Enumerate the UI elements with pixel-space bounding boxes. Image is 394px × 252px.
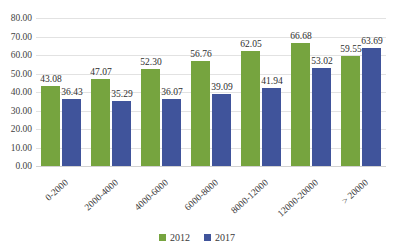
bar-2017[interactable] — [262, 88, 281, 166]
legend-swatch-icon — [159, 234, 166, 241]
y-axis-tick-label: 60.00 — [0, 50, 32, 60]
bar-group: 62.0541.94 — [241, 18, 281, 166]
legend-item[interactable]: 2012 — [159, 232, 190, 243]
y-axis-tick-label: 30.00 — [0, 106, 32, 116]
bar-2012[interactable] — [241, 51, 260, 166]
bar-2017[interactable] — [212, 94, 231, 166]
bar-value-label: 63.69 — [355, 36, 389, 46]
bar-2017[interactable] — [362, 48, 381, 166]
y-axis-tick-label: 0.00 — [0, 161, 32, 171]
x-axis-category-label: 6000-8000 — [164, 177, 220, 229]
y-axis-tick-label: 80.00 — [0, 13, 32, 23]
bar-value-label: 41.94 — [255, 76, 289, 86]
bar-value-label: 53.02 — [305, 56, 339, 66]
bar-value-label: 56.76 — [184, 49, 218, 59]
x-axis-category-label: 12000-20000 — [264, 177, 320, 229]
x-axis-category-label: 8000-12000 — [214, 177, 270, 229]
chart-legend: 20122017 — [0, 232, 394, 243]
bar-chart: 0.0010.0020.0030.0040.0050.0060.0070.008… — [0, 0, 394, 252]
bar-value-label: 39.09 — [205, 82, 239, 92]
y-axis-tick-label: 10.00 — [0, 143, 32, 153]
y-axis-tick-label: 70.00 — [0, 32, 32, 42]
bar-2017[interactable] — [62, 99, 81, 166]
bar-2017[interactable] — [162, 99, 181, 166]
x-axis-category-label: 2000-4000 — [64, 177, 120, 229]
bar-2012[interactable] — [41, 86, 60, 166]
bar-value-label: 35.29 — [105, 89, 139, 99]
legend-label: 2017 — [215, 232, 235, 243]
bar-value-label: 66.68 — [284, 31, 318, 41]
bar-value-label: 52.30 — [134, 57, 168, 67]
x-axis-category-label: > 20000 — [314, 177, 370, 229]
bar-group: 43.0836.43 — [41, 18, 81, 166]
bar-value-label: 36.07 — [155, 87, 189, 97]
gridline — [36, 166, 386, 167]
bar-2012[interactable] — [341, 56, 360, 166]
legend-label: 2012 — [170, 232, 190, 243]
bar-group: 56.7639.09 — [191, 18, 231, 166]
y-axis-tick-label: 20.00 — [0, 124, 32, 134]
y-axis-tick-label: 40.00 — [0, 87, 32, 97]
bar-2012[interactable] — [141, 69, 160, 166]
bar-value-label: 62.05 — [234, 39, 268, 49]
x-axis-category-label: 0-2000 — [14, 177, 70, 229]
x-axis-category-label: 4000-6000 — [114, 177, 170, 229]
bar-value-label: 36.43 — [55, 87, 89, 97]
legend-item[interactable]: 2017 — [204, 232, 235, 243]
bar-group: 52.3036.07 — [141, 18, 181, 166]
legend-swatch-icon — [204, 234, 211, 241]
bar-2017[interactable] — [312, 68, 331, 166]
bar-2017[interactable] — [112, 101, 131, 166]
bar-value-label: 47.07 — [84, 67, 118, 77]
bar-value-label: 43.08 — [34, 74, 68, 84]
bar-2012[interactable] — [191, 61, 210, 166]
bar-group: 47.0735.29 — [91, 18, 131, 166]
bar-group: 66.6853.02 — [291, 18, 331, 166]
bar-group: 59.5563.69 — [341, 18, 381, 166]
plot-area: 43.0836.4347.0735.2952.3036.0756.7639.09… — [36, 18, 386, 166]
y-axis-tick-label: 50.00 — [0, 69, 32, 79]
